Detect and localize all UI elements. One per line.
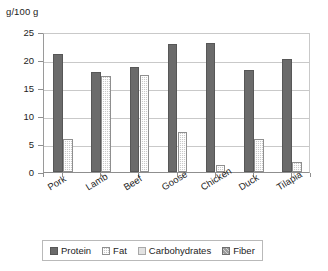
x-axis-label-beef: Beef xyxy=(122,174,144,192)
bar-protein-chicken xyxy=(206,43,216,172)
bar-protein-goose xyxy=(168,44,178,172)
legend-item-carbohydrates[interactable]: Carbohydrates xyxy=(138,245,211,256)
bar-protein-lamb xyxy=(91,72,101,172)
legend-label: Protein xyxy=(61,245,91,256)
legend-swatch-carbohydrates xyxy=(138,247,146,255)
x-axis-label-duck: Duck xyxy=(237,173,260,193)
y-axis-tick-label: 10 xyxy=(4,112,34,122)
bar-group xyxy=(273,34,311,172)
bar-group xyxy=(120,34,158,172)
y-axis-tick-mark xyxy=(38,89,43,90)
y-axis-tick-label: 15 xyxy=(4,84,34,94)
bar-fat-lamb xyxy=(101,76,111,172)
legend-swatch-fat xyxy=(102,247,110,255)
bar-protein-pork xyxy=(53,54,63,172)
legend-item-fiber[interactable]: Fiber xyxy=(222,245,255,256)
legend-swatch-protein xyxy=(50,247,58,255)
y-axis-title: g/100 g xyxy=(6,6,38,17)
bar-group xyxy=(44,34,82,172)
x-axis-tick-mark xyxy=(310,173,311,177)
legend-item-fat[interactable]: Fat xyxy=(102,245,127,256)
bar-fat-beef xyxy=(140,75,150,172)
y-axis-tick-mark xyxy=(38,33,43,34)
x-axis-label-lamb: Lamb xyxy=(84,171,109,192)
y-axis-tick-label: 20 xyxy=(4,56,34,66)
y-axis-tick-label: 0 xyxy=(4,168,34,178)
bar-protein-duck xyxy=(244,70,254,172)
legend-label: Carbohydrates xyxy=(149,245,211,256)
legend-label: Fat xyxy=(113,245,127,256)
bar-protein-beef xyxy=(130,67,140,172)
legend-swatch-fiber xyxy=(222,247,230,255)
bar-chart: g/100 g 2520151050 PorkLambBeefGooseChic… xyxy=(0,0,328,271)
bar-group xyxy=(235,34,273,172)
x-axis-label-pork: Pork xyxy=(46,174,68,192)
bar-fat-goose xyxy=(178,132,188,172)
legend-label: Fiber xyxy=(233,245,255,256)
bar-group xyxy=(82,34,120,172)
y-axis-tick-mark xyxy=(38,61,43,62)
y-axis-tick-label: 25 xyxy=(4,28,34,38)
x-axis-tick-mark xyxy=(43,173,44,177)
bar-group xyxy=(158,34,196,172)
bar-fat-pork xyxy=(63,139,73,172)
bar-group xyxy=(197,34,235,172)
bar-fat-duck xyxy=(254,139,264,172)
bar-protein-tilapia xyxy=(282,59,292,172)
y-axis-tick-mark xyxy=(38,145,43,146)
chart-legend: ProteinFatCarbohydratesFiber xyxy=(42,240,263,261)
plot-area xyxy=(43,33,310,173)
legend-item-protein[interactable]: Protein xyxy=(50,245,91,256)
y-axis-tick-label: 5 xyxy=(4,140,34,150)
y-axis-tick-mark xyxy=(38,117,43,118)
